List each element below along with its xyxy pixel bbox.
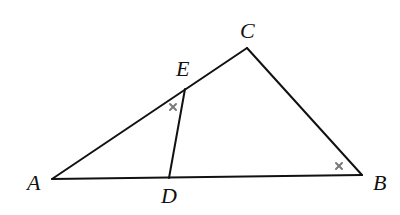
label-a: A — [25, 170, 41, 195]
triangle-abc — [52, 48, 362, 179]
segment-ca — [52, 48, 247, 179]
angle-mark-abc — [336, 163, 342, 169]
label-e: E — [175, 56, 190, 81]
angle-mark-aed — [170, 104, 176, 110]
label-b: B — [373, 170, 386, 195]
label-c: C — [240, 18, 255, 43]
segment-ab — [52, 175, 362, 179]
segment-de — [169, 89, 185, 178]
segment-bc — [247, 48, 362, 175]
geometry-diagram: C E A D B — [0, 0, 400, 215]
label-d: D — [160, 183, 177, 208]
